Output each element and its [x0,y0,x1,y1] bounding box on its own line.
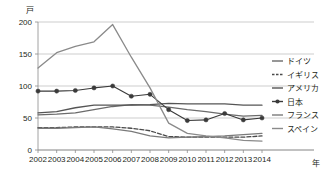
data-point-marker [55,89,59,93]
data-point-marker [241,118,245,122]
x-tick-label: 2012 [216,155,234,164]
data-point-marker [92,86,96,90]
data-point-marker [223,111,227,115]
x-axis-unit-label: 年 [312,158,320,168]
x-tick-label: 2014 [253,155,271,164]
y-tick-marks [35,22,38,150]
data-point-marker [73,88,77,92]
legend-label-5: スペイン [287,125,318,134]
x-tick-marks [38,150,262,153]
x-tick-label: 2002 [29,155,47,164]
data-point-marker [167,108,171,112]
series-line-5 [38,25,262,141]
y-tick-label: 150 [19,50,33,59]
x-tick-label: 2007 [122,155,140,164]
data-point-marker [111,84,115,88]
y-tick-label: 0 [28,146,33,155]
gridlines [38,22,314,150]
line-chart: 050100150200 200220032004200520062007200… [0,0,332,175]
series-line-2 [38,103,262,113]
y-tick-label: 100 [19,82,33,91]
x-tick-label: 2003 [48,155,66,164]
chart-svg: 050100150200 200220032004200520062007200… [0,0,332,175]
legend-label-2: アメリカ [287,84,319,93]
legend-marker-3 [275,99,279,103]
x-tick-label: 2013 [234,155,252,164]
data-point-marker [204,118,208,122]
x-tick-label: 2006 [104,155,122,164]
x-tick-label: 2005 [85,155,103,164]
legend-label-3: 日本 [287,97,303,107]
x-tick-label: 2009 [160,155,178,164]
series-line-3 [38,86,262,121]
data-point-marker [260,116,264,120]
y-tick-label: 50 [23,114,32,123]
data-point-marker [36,89,40,93]
x-tick-label: 2004 [66,155,84,164]
data-point-marker [148,92,152,96]
data-point-marker [129,94,133,98]
series-line-4 [38,127,262,138]
legend-label-4: フランス [287,111,319,120]
legend: ドイツイギリスアメリカ日本フランススペイン [272,57,319,134]
x-tick-labels: 2002200320042005200620072008200920102011… [29,155,271,164]
series-group [36,25,264,141]
y-tick-labels: 050100150200 [19,18,33,155]
x-tick-label: 2010 [178,155,196,164]
legend-label-1: イギリス [287,71,319,80]
x-tick-label: 2011 [197,155,215,164]
legend-label-0: ドイツ [287,57,311,66]
y-tick-label: 200 [19,18,33,27]
x-tick-label: 2008 [141,155,159,164]
y-axis-unit-label: 戸 [26,6,34,15]
data-point-marker [185,118,189,122]
